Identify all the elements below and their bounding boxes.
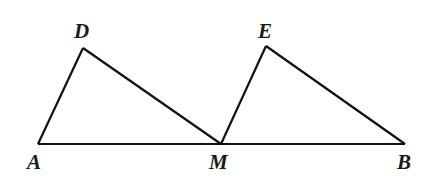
point-label-e: E (257, 19, 272, 43)
segment-dm (83, 48, 221, 144)
segment-me (221, 46, 266, 144)
point-label-a: A (25, 150, 41, 174)
point-label-m: M (208, 150, 229, 174)
segment-ad (38, 48, 83, 144)
segment-eb (266, 46, 405, 144)
point-label-d: D (73, 19, 89, 43)
geometry-diagram: A D M E B (0, 0, 436, 180)
point-label-b: B (396, 150, 411, 174)
